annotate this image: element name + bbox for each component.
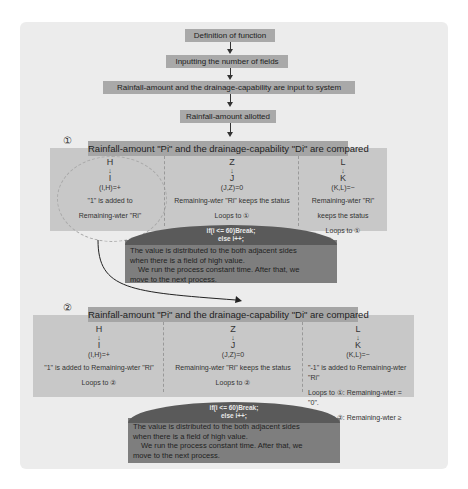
step-number-2: ②: [63, 302, 72, 313]
column-divider: [302, 322, 303, 392]
condition-box-2-text: The value is distributed to the both adj…: [133, 422, 338, 460]
column-divider: [163, 322, 164, 392]
condition-box-2-header: if(i <= 60)Break; else i++;: [128, 402, 340, 423]
panel-2-title: Rainfall-amount "Pi" and the drainage-ca…: [88, 307, 358, 322]
panel-2-column-high: H ↓ I (I,H)=+ "1" is added to Remaining-…: [36, 325, 162, 388]
panel-2-column-zero: Z ↓ J (J,Z)=0 Remaining-wter "Ri" keeps …: [166, 325, 300, 388]
